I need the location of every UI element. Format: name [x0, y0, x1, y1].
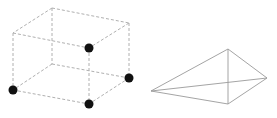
vertex-dot	[85, 100, 94, 109]
vertex-dot	[9, 86, 18, 95]
cube-edge	[13, 64, 52, 90]
diagram-canvas	[0, 0, 277, 118]
cube-edge	[89, 23, 129, 48]
tetrahedron-wireframe	[151, 49, 267, 104]
cube-edge	[13, 90, 89, 104]
vertex-dot	[85, 44, 94, 53]
cube-edge	[13, 8, 52, 33]
tetra-edge	[151, 49, 228, 91]
cube-wireframe	[13, 8, 129, 104]
tetra-edge	[151, 78, 267, 91]
cube-marked-vertices	[9, 44, 134, 109]
tetra-edge	[228, 49, 267, 78]
cube-edge	[89, 78, 129, 104]
cube-edge	[52, 8, 129, 23]
cube-edge	[52, 64, 129, 78]
cube-edge	[13, 33, 89, 48]
tetra-edge	[151, 91, 228, 104]
vertex-dot	[125, 74, 134, 83]
